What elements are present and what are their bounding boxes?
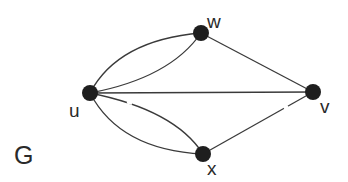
edge-gap (284, 106, 288, 108)
edge-x-v (203, 92, 313, 154)
vertex-v (305, 84, 321, 100)
graph-diagram: u w v x G (0, 0, 348, 182)
edge-u-x-inner (90, 93, 203, 154)
edge-w-v (201, 33, 313, 92)
vertex-label-x: x (207, 158, 217, 179)
edge-gap (127, 102, 132, 104)
graph-name-label: G (14, 141, 33, 169)
edge-u-x-outer (90, 93, 203, 154)
edge-u-v (90, 92, 313, 93)
edges (90, 33, 313, 154)
vertex-u (82, 85, 98, 101)
vertex-label-u: u (69, 100, 80, 121)
vertex-label-v: v (320, 96, 330, 117)
edge-u-w-outer (90, 33, 201, 93)
edge-u-w-inner (90, 33, 201, 93)
vertex-label-w: w (206, 11, 221, 32)
